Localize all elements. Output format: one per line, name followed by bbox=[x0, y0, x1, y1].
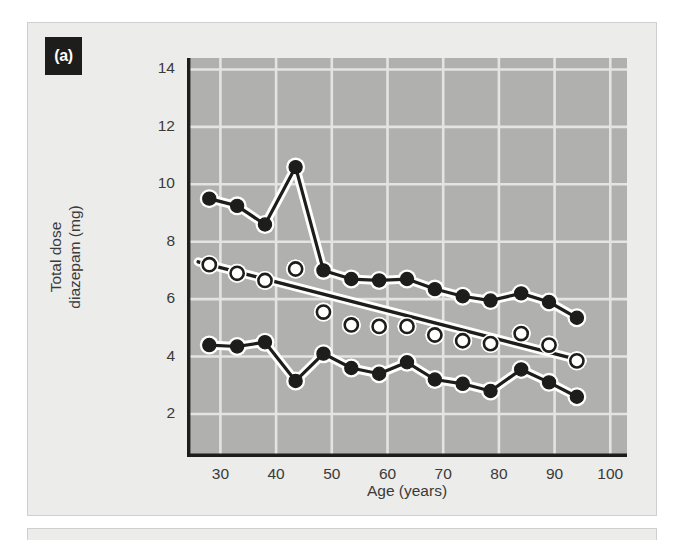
x-tick-60: 60 bbox=[366, 465, 410, 483]
data-point-median-open-circle bbox=[258, 274, 271, 287]
data-point-median-open-circle bbox=[542, 338, 555, 351]
figure-panel-b-top-edge bbox=[27, 528, 657, 540]
data-point-lower-percentile bbox=[317, 347, 330, 360]
y-tick-2: 2 bbox=[131, 404, 175, 422]
data-point-lower-percentile bbox=[400, 356, 413, 369]
panel-label-a: (a) bbox=[45, 37, 82, 75]
x-tick-70: 70 bbox=[421, 465, 465, 483]
data-point-median-open-circle bbox=[373, 320, 386, 333]
plot-background bbox=[187, 58, 627, 457]
data-point-lower-percentile bbox=[345, 361, 358, 374]
data-point-median-open-circle bbox=[203, 258, 216, 271]
chart-svg bbox=[187, 58, 627, 457]
data-point-upper-percentile bbox=[570, 311, 583, 324]
data-point-upper-percentile bbox=[203, 192, 216, 205]
x-tick-50: 50 bbox=[310, 465, 354, 483]
data-point-upper-percentile bbox=[258, 218, 271, 231]
data-point-lower-percentile bbox=[203, 338, 216, 351]
x-tick-80: 80 bbox=[477, 465, 521, 483]
x-tick-30: 30 bbox=[198, 465, 242, 483]
data-point-median-open-circle bbox=[400, 320, 413, 333]
data-point-upper-percentile bbox=[456, 290, 469, 303]
data-point-upper-percentile bbox=[400, 272, 413, 285]
data-point-lower-percentile bbox=[570, 390, 583, 403]
data-point-median-open-circle bbox=[515, 327, 528, 340]
plot-area bbox=[187, 58, 627, 457]
data-point-lower-percentile bbox=[289, 374, 302, 387]
data-point-lower-percentile bbox=[515, 363, 528, 376]
data-point-lower-percentile bbox=[484, 384, 497, 397]
x-tick-100: 100 bbox=[588, 465, 632, 483]
x-tick-40: 40 bbox=[254, 465, 298, 483]
data-point-lower-percentile bbox=[428, 373, 441, 386]
y-tick-6: 6 bbox=[131, 289, 175, 307]
data-point-median-open-circle bbox=[484, 337, 497, 350]
figure-root: (a) Total dose diazepam (mg) Age (years)… bbox=[0, 0, 680, 540]
data-point-upper-percentile bbox=[345, 272, 358, 285]
data-point-lower-percentile bbox=[373, 367, 386, 380]
data-point-upper-percentile bbox=[515, 287, 528, 300]
data-point-lower-percentile bbox=[542, 376, 555, 389]
y-tick-10: 10 bbox=[131, 174, 175, 192]
data-point-upper-percentile bbox=[289, 160, 302, 173]
y-tick-14: 14 bbox=[131, 59, 175, 77]
data-point-lower-percentile bbox=[231, 340, 244, 353]
data-point-lower-percentile bbox=[258, 336, 271, 349]
data-point-upper-percentile bbox=[542, 295, 555, 308]
x-tick-90: 90 bbox=[533, 465, 577, 483]
data-point-median-open-circle bbox=[456, 334, 469, 347]
data-point-upper-percentile bbox=[428, 282, 441, 295]
data-point-median-open-circle bbox=[317, 305, 330, 318]
data-point-upper-percentile bbox=[484, 294, 497, 307]
y-tick-4: 4 bbox=[131, 347, 175, 365]
y-tick-12: 12 bbox=[131, 117, 175, 135]
data-point-median-open-circle bbox=[570, 354, 583, 367]
data-point-median-open-circle bbox=[289, 262, 302, 275]
data-point-median-open-circle bbox=[231, 267, 244, 280]
data-point-upper-percentile bbox=[373, 274, 386, 287]
data-point-upper-percentile bbox=[317, 264, 330, 277]
data-point-upper-percentile bbox=[231, 199, 244, 212]
y-axis-title: Total dose diazepam (mg) bbox=[46, 152, 84, 362]
y-tick-8: 8 bbox=[131, 232, 175, 250]
data-point-lower-percentile bbox=[456, 377, 469, 390]
data-point-median-open-circle bbox=[428, 328, 441, 341]
data-point-median-open-circle bbox=[345, 318, 358, 331]
x-axis-title: Age (years) bbox=[187, 482, 627, 500]
